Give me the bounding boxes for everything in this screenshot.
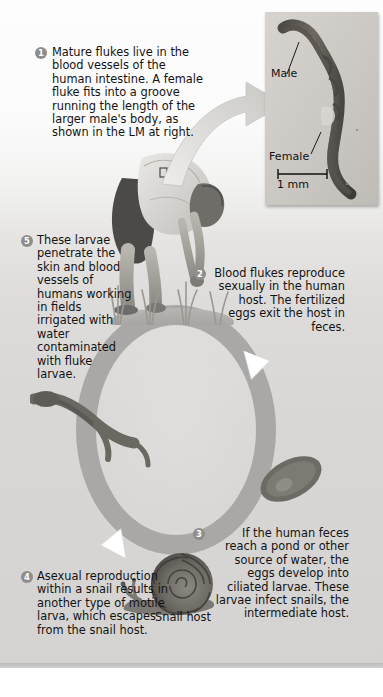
panel-bottom-shadow bbox=[0, 663, 383, 669]
micrograph-scale-bar-label: 1 mm bbox=[277, 178, 309, 191]
step-text-4: Asexual reproduction within a snail resu… bbox=[37, 570, 171, 637]
step-text-3: If the human feces reach a pond or other… bbox=[209, 527, 349, 621]
step-badge-3: 3 bbox=[193, 528, 205, 540]
micrograph-label-female: Female bbox=[269, 150, 309, 163]
step-badge-2: 2 bbox=[194, 268, 206, 280]
micrograph-label-male: Male bbox=[271, 67, 297, 80]
blood-fluke-life-cycle-figure: Male Female 1 mm bbox=[0, 0, 383, 697]
step-text-5: These larvae penetrate the skin and bloo… bbox=[37, 234, 133, 381]
light-micrograph-panel: Male Female bbox=[265, 12, 378, 205]
step-badge-1: 1 bbox=[35, 47, 47, 59]
step-badge-4: 4 bbox=[21, 571, 33, 583]
step-text-1: Mature flukes live in the blood vessels … bbox=[52, 46, 207, 140]
cercaria-larva-illustration bbox=[30, 385, 155, 470]
ciliated-larva-illustration bbox=[250, 443, 332, 515]
step-text-2: Blood flukes reproduce sexually in the h… bbox=[210, 267, 345, 334]
fluke-micrograph-image bbox=[265, 12, 378, 205]
step-badge-5: 5 bbox=[21, 235, 33, 247]
